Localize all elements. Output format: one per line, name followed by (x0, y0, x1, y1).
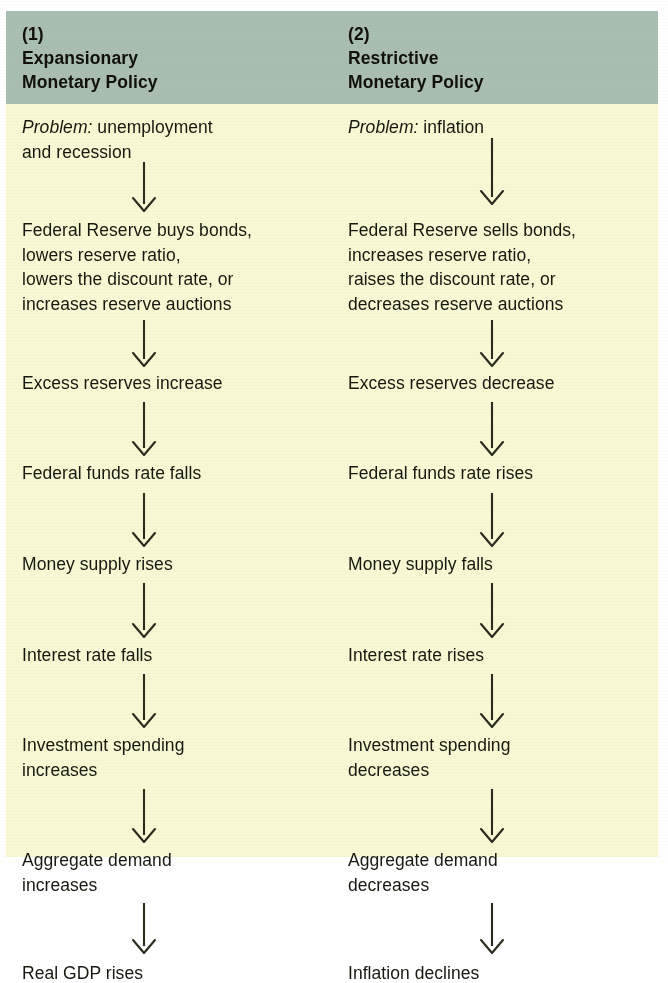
step-investment-spending-left: Investment spending increases (22, 733, 322, 782)
step-fed-funds-rate-left: Federal funds rate falls (22, 461, 322, 486)
down-arrow-icon-l2 (122, 319, 166, 369)
down-arrow-icon-r1 (470, 137, 514, 207)
step-money-supply-right: Money supply falls (348, 552, 648, 577)
problem-label-left: Problem: (22, 117, 92, 137)
step-problem-right: Problem: inflation (348, 115, 648, 140)
step-excess-reserves-left: Excess reserves increase (22, 371, 322, 396)
column-expansionary: (1) Expansionary Monetary Policy Problem… (6, 11, 332, 857)
down-arrow-icon-r2 (470, 319, 514, 369)
step-outcome-left: Real GDP rises (22, 961, 322, 983)
step-investment-spending-right: Investment spending decreases (348, 733, 648, 782)
step-fed-funds-rate-right: Federal funds rate rises (348, 461, 648, 486)
column-1-title: Expansionary Monetary Policy (22, 46, 322, 94)
column-2-number: (2) (348, 22, 648, 46)
problem-text-right: inflation (418, 117, 484, 137)
down-arrow-icon-r8 (470, 902, 514, 956)
down-arrow-icon-l6 (122, 673, 166, 730)
step-outcome-right: Inflation declines (348, 961, 648, 983)
step-interest-rate-right: Interest rate rises (348, 643, 648, 668)
step-fed-action-left: Federal Reserve buys bonds, lowers reser… (22, 218, 322, 316)
step-aggregate-demand-right: Aggregate demand decreases (348, 848, 648, 897)
problem-label-right: Problem: (348, 117, 418, 137)
step-fed-action-right: Federal Reserve sells bonds, increases r… (348, 218, 648, 316)
column-1-heading: (1) Expansionary Monetary Policy (22, 22, 322, 94)
down-arrow-icon-l7 (122, 788, 166, 845)
column-2-title: Restrictive Monetary Policy (348, 46, 648, 94)
step-money-supply-left: Money supply rises (22, 552, 322, 577)
columns-container: (1) Expansionary Monetary Policy Problem… (6, 11, 658, 857)
column-restrictive: (2) Restrictive Monetary Policy Problem:… (332, 11, 658, 857)
down-arrow-icon-r4 (470, 492, 514, 549)
step-aggregate-demand-left: Aggregate demand increases (22, 848, 322, 897)
down-arrow-icon-r5 (470, 582, 514, 640)
down-arrow-icon-l3 (122, 401, 166, 458)
column-1-number: (1) (22, 22, 322, 46)
down-arrow-icon-l5 (122, 582, 166, 640)
down-arrow-icon-r6 (470, 673, 514, 730)
down-arrow-icon-l1 (122, 161, 166, 214)
step-excess-reserves-right: Excess reserves decrease (348, 371, 648, 396)
step-problem-left: Problem: unemployment and recession (22, 115, 322, 164)
down-arrow-icon-l8 (122, 902, 166, 956)
down-arrow-icon-r3 (470, 401, 514, 458)
down-arrow-icon-r7 (470, 788, 514, 845)
step-interest-rate-left: Interest rate falls (22, 643, 322, 668)
column-2-heading: (2) Restrictive Monetary Policy (348, 22, 648, 94)
down-arrow-icon-l4 (122, 492, 166, 549)
